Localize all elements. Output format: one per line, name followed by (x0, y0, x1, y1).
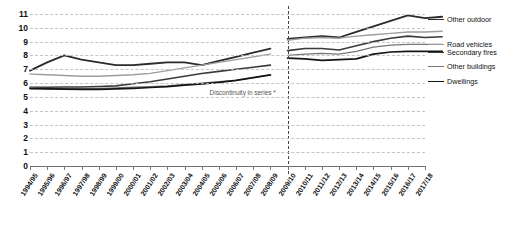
y-axis-tick-7: 7 (10, 64, 28, 74)
gridline-11 (30, 14, 425, 15)
plot-area: Discontinuity in series * (30, 14, 425, 166)
gridline-2 (30, 138, 425, 139)
x-axis-tickmark (82, 166, 83, 170)
y-axis-tick-8: 8 (10, 50, 28, 60)
discontinuity-marker (288, 6, 289, 174)
x-axis-tickmark (202, 166, 203, 170)
gridline-6 (30, 83, 425, 84)
x-axis-tickmark (305, 166, 306, 170)
x-axis-tickmark (150, 166, 151, 170)
legend-label: Other outdoor (447, 16, 491, 24)
x-axis-tickmark (339, 166, 340, 170)
x-axis-tickmark (64, 166, 65, 170)
legend-label: Secondary fires (447, 49, 497, 57)
legend-swatch-icon (428, 66, 444, 67)
gridline-4 (30, 111, 425, 112)
y-axis-tick-10: 10 (10, 23, 28, 33)
x-axis-tickmark (30, 166, 31, 170)
y-axis-tick-5: 5 (10, 92, 28, 102)
gridline-10 (30, 28, 425, 29)
legend-item-secondary-fires[interactable]: Secondary fires (428, 49, 497, 57)
y-axis-tick-4: 4 (10, 106, 28, 116)
chart-legend: Other outdoorRoad vehiclesSecondary fire… (428, 8, 520, 88)
gridline-8 (30, 55, 425, 56)
x-axis-tickmark (47, 166, 48, 170)
x-axis-tick-2017-18: 2017/18 (414, 172, 434, 197)
legend-item-other-buildings[interactable]: Other buildings (428, 63, 495, 71)
x-axis-tickmark (356, 166, 357, 170)
gridline-7 (30, 69, 425, 70)
x-axis-tickmark (253, 166, 254, 170)
x-axis-tickmark (270, 166, 271, 170)
y-axis-tick-0: 0 (10, 161, 28, 171)
y-axis-tick-6: 6 (10, 78, 28, 88)
legend-item-other-outdoor[interactable]: Other outdoor (428, 16, 491, 24)
legend-swatch-icon (428, 81, 444, 82)
y-axis-tick-2: 2 (10, 133, 28, 143)
gridline-1 (30, 152, 425, 153)
discontinuity-label: Discontinuity in series * (210, 89, 276, 96)
x-axis-tickmark (185, 166, 186, 170)
legend-swatch-icon (428, 52, 444, 53)
x-axis-tick-2009-10: 2009/10 (277, 172, 297, 197)
x-axis-tickmark (99, 166, 100, 170)
legend-item-dwellings[interactable]: Dwellings (428, 78, 478, 86)
series-line-road-vehicles (288, 31, 443, 40)
x-axis-tickmark (219, 166, 220, 170)
x-axis-tickmark (288, 166, 289, 170)
x-axis-tick-1996-97: 1996/97 (54, 172, 74, 197)
x-axis-tickmark (391, 166, 392, 170)
y-axis: 01234567891011 (8, 14, 28, 166)
x-axis-tickmark (133, 166, 134, 170)
y-axis-tick-9: 9 (10, 37, 28, 47)
gridline-9 (30, 42, 425, 43)
legend-label: Other buildings (447, 63, 495, 71)
x-axis-tickmark (373, 166, 374, 170)
gridline-5 (30, 97, 425, 98)
gridline-3 (30, 125, 425, 126)
x-axis-tickmark (322, 166, 323, 170)
line-chart: 01234567891011 Discontinuity in series *… (0, 0, 520, 247)
legend-swatch-icon (428, 44, 444, 45)
y-axis-tick-11: 11 (10, 9, 28, 19)
x-axis: 1994/951995/961996/971997/981998/991999/… (30, 166, 425, 246)
legend-label: Dwellings (447, 78, 478, 86)
x-axis-tickmark (167, 166, 168, 170)
y-axis-tick-3: 3 (10, 120, 28, 130)
y-axis-tick-1: 1 (10, 147, 28, 157)
x-axis-tickmark (116, 166, 117, 170)
legend-swatch-icon (428, 19, 444, 20)
x-axis-tickmark (408, 166, 409, 170)
series-line-other-buildings (288, 44, 443, 55)
x-axis-tickmark (425, 166, 426, 170)
x-axis-tickmark (236, 166, 237, 170)
